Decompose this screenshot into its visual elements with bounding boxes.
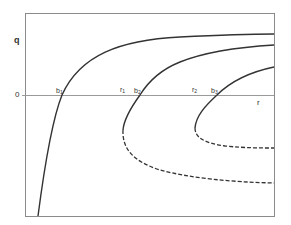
point-label-r1: r1: [120, 86, 125, 94]
curve-1: [38, 34, 274, 216]
diagram-figure: q 0 r b1 r1 b2 r2 b3: [0, 0, 291, 225]
curve-3-dashed: [195, 128, 274, 148]
plot-frame: [26, 14, 275, 217]
point-label-r2: r2: [192, 86, 197, 94]
curve-2-dashed: [123, 130, 274, 183]
curve-3-solid: [195, 67, 274, 128]
point-label-b3: b3: [211, 87, 218, 95]
point-label-b1: b1: [56, 87, 63, 95]
point-label-b2: b2: [134, 87, 141, 95]
diagram-canvas: [0, 0, 291, 225]
y-axis-label: q: [14, 36, 20, 45]
zero-label: 0: [15, 91, 19, 99]
x-axis-label: r: [257, 99, 260, 107]
